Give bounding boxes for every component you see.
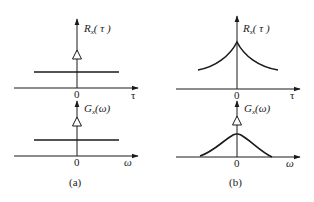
origin-label: 0 xyxy=(234,157,240,169)
panel-b-spectral-density-plot: Gx(ω) 0 ω (b) xyxy=(176,101,300,189)
axis-title-g: Gx(ω) xyxy=(84,102,110,116)
axis-title-r: Rx( τ ) xyxy=(242,22,270,36)
panel-b-autocorrelation-plot: Rx( τ ) 0 τ xyxy=(176,16,300,101)
omega-label: ω xyxy=(124,156,132,168)
caption-b: (b) xyxy=(229,176,242,189)
origin-label: 0 xyxy=(74,156,80,168)
origin-label: 0 xyxy=(74,88,80,100)
origin-label: 0 xyxy=(234,89,240,101)
tau-label: τ xyxy=(290,89,295,101)
panel-a-autocorrelation-plot: Rx( τ ) 0 τ xyxy=(14,19,138,101)
exponential-decay-curve xyxy=(198,42,278,70)
diagram-canvas: Rx( τ ) 0 τ Gx(ω) 0 ω (a) Rx( τ ) 0 τ G xyxy=(0,0,314,202)
panel-a-spectral-density-plot: Gx(ω) 0 ω (a) xyxy=(14,101,138,189)
omega-label: ω xyxy=(286,157,294,169)
axis-title-r: Rx( τ ) xyxy=(83,22,111,36)
impulse-triangle-icon xyxy=(73,117,82,126)
impulse-triangle-icon xyxy=(73,50,82,59)
axis-title-g: Gx(ω) xyxy=(244,102,270,116)
tau-label: τ xyxy=(131,89,136,101)
bell-curve xyxy=(200,134,272,157)
impulse-triangle-icon xyxy=(233,116,242,125)
caption-a: (a) xyxy=(69,176,82,189)
